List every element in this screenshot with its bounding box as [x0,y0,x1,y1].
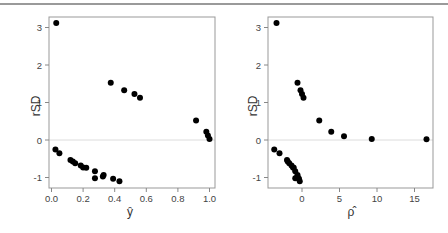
data-point [131,91,137,97]
data-point [108,80,114,86]
data-point [274,20,280,26]
x-tick-label: 0.4 [108,193,121,204]
data-point [295,80,301,86]
x-tick-label: 1.0 [203,193,216,204]
data-point [56,150,62,156]
data-point [101,172,107,178]
y-tick-label: 3 [37,22,42,33]
data-point [297,178,303,184]
data-point [116,178,122,184]
data-point [271,146,277,152]
scatter-panel-rhohat: -10123051015 [253,17,433,204]
x-tick-label: 0.6 [140,193,153,204]
y-axis-title-left: rSD [29,95,43,116]
y-tick-label: 0 [256,135,261,146]
x-tick-label: 0.0 [45,193,58,204]
y-tick-label: 2 [256,60,261,71]
plot-frame [268,17,433,188]
data-point [72,160,78,166]
data-point [328,129,334,135]
data-point [369,136,375,142]
data-point [341,133,347,139]
data-point [301,95,307,101]
data-point [92,175,98,181]
data-point [316,118,322,124]
x-tick-label: 10 [372,193,383,204]
y-tick-label: -1 [34,172,42,183]
y-tick-label: 0 [37,135,42,146]
y-tick-label: -1 [253,172,261,183]
data-point [83,165,89,171]
data-point [193,118,199,124]
x-tick-label: 5 [337,193,342,204]
data-point [137,95,143,101]
data-point [92,168,98,174]
data-point [277,150,283,156]
data-point [53,20,59,26]
x-tick-label: 0.8 [171,193,184,204]
scatter-panel-yhat: -101230.00.20.40.60.81.0 [34,17,217,204]
data-point [110,176,116,182]
x-axis-title-right: ρ̂ [348,205,357,219]
scatter-figure: -101230.00.20.40.60.81.0 -10123051015 rS… [0,0,448,233]
y-tick-label: 3 [256,22,261,33]
data-point [207,136,213,142]
x-tick-label: 15 [409,193,420,204]
data-point [424,136,430,142]
x-axis-title-left: ŷ [127,205,133,219]
y-axis-title-right: rSD [246,95,260,116]
x-tick-label: 0 [299,193,304,204]
data-point [121,87,127,93]
y-tick-label: 2 [37,60,42,71]
x-tick-label: 0.2 [76,193,89,204]
